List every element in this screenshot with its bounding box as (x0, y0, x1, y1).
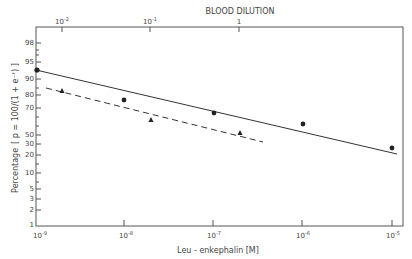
top-axis-ticks: 10-2 10-1 1 (55, 16, 241, 32)
data-point-dot (301, 122, 306, 127)
data-point-dot (34, 67, 39, 72)
svg-text:10-9: 10-9 (33, 230, 47, 240)
svg-text:10: 10 (25, 169, 34, 177)
svg-text:80: 80 (25, 91, 34, 99)
data-point-dot (390, 146, 395, 151)
top-tick-label: 10-1 (143, 16, 157, 26)
data-point-triangle (60, 88, 65, 93)
data-point-triangle (149, 117, 154, 122)
svg-text:30: 30 (25, 140, 34, 148)
top-tick-label: 1 (237, 18, 241, 26)
data-point-triangle (238, 130, 243, 135)
top-tick-label: 10-2 (55, 16, 69, 26)
left-axis-title: Percentage[ p = 100/(1 + e⁻ᶠ) ] (11, 63, 20, 193)
top-axis-title: BLOOD DILUTION (206, 7, 275, 16)
bottom-axis-ticks: 10-9 10-8 10-7 10-6 10-5 (33, 220, 400, 240)
svg-text:10-7: 10-7 (207, 230, 221, 240)
svg-text:1: 1 (30, 221, 34, 229)
svg-text:10-8: 10-8 (119, 230, 133, 240)
svg-text:90: 90 (25, 75, 34, 83)
svg-text:95: 95 (25, 58, 34, 66)
chart: BLOOD DILUTION 10-2 10-1 1 10-9 10-8 10-… (0, 0, 412, 259)
svg-text:10-6: 10-6 (296, 230, 310, 240)
plot-frame (36, 27, 403, 226)
series-leu-enkephalin (34, 67, 394, 150)
svg-text:10-5: 10-5 (386, 230, 400, 240)
svg-text:98: 98 (25, 39, 34, 47)
data-point-dot (212, 111, 217, 116)
left-axis-labels: 98 95 90 80 70 50 30 20 10 5 3 2 1 (25, 39, 34, 229)
svg-text:5: 5 (30, 185, 34, 193)
svg-text:2: 2 (30, 206, 34, 214)
svg-text:20: 20 (25, 151, 34, 159)
bottom-axis-title: Leu - enkephalin [M] (177, 246, 259, 255)
svg-text:70: 70 (25, 104, 34, 112)
svg-text:50: 50 (25, 131, 34, 139)
data-point-dot (122, 98, 127, 103)
svg-text:3: 3 (30, 195, 34, 203)
solid-fit-line (36, 70, 397, 154)
